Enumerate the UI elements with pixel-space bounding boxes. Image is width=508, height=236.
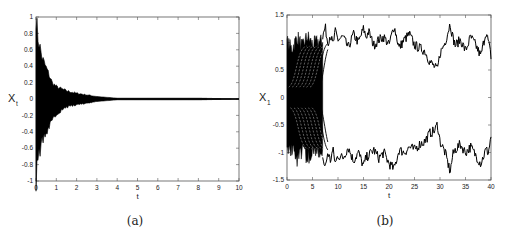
y-tick-label: -1 bbox=[278, 149, 284, 156]
x-tick-label: 9 bbox=[217, 184, 221, 191]
y-tick-label: 1.5 bbox=[275, 11, 284, 18]
y-tick-label: -1.5 bbox=[273, 176, 285, 183]
figure-canvas: 012345678910-1-0.8-0.6-0.4-0.200.20.40.6… bbox=[0, 0, 508, 236]
x-tick-label: 40 bbox=[487, 183, 495, 190]
caption-a: (a) bbox=[127, 214, 144, 228]
y-axis-label-subscript: t bbox=[16, 100, 18, 107]
x-tick-label: 3 bbox=[95, 184, 99, 191]
x-tick-label: 15 bbox=[360, 183, 368, 190]
x-axis-label: t bbox=[136, 192, 139, 201]
x-tick-label: 25 bbox=[411, 183, 419, 190]
y-tick-label: -0.2 bbox=[22, 112, 34, 119]
y-tick-label: 0.2 bbox=[24, 79, 33, 86]
x-tick-label: 30 bbox=[436, 183, 444, 190]
x-tick-label: 8 bbox=[197, 184, 201, 191]
y-tick-label: 0.5 bbox=[275, 66, 284, 73]
chart-panel-a: 012345678910-1-0.8-0.6-0.4-0.200.20.40.6… bbox=[8, 13, 243, 201]
x-axis-label: t bbox=[388, 191, 391, 200]
y-tick-label: -0.4 bbox=[22, 128, 34, 135]
x-tick-label: 0 bbox=[285, 183, 289, 190]
y-tick-label: 0.6 bbox=[24, 46, 33, 53]
y-tick-label: 0.8 bbox=[24, 30, 33, 37]
y-tick-label: 1 bbox=[29, 13, 33, 20]
y-axis-label: X bbox=[8, 92, 16, 104]
x-tick-label: 5 bbox=[311, 183, 315, 190]
x-tick-label: 35 bbox=[462, 183, 470, 190]
lower-branch-line bbox=[323, 122, 491, 173]
y-tick-label: 0 bbox=[29, 95, 33, 102]
trajectory-bundle bbox=[287, 32, 323, 167]
x-tick-label: 1 bbox=[54, 184, 58, 191]
y-tick-label: 0 bbox=[280, 94, 284, 101]
caption-b: (b) bbox=[376, 214, 393, 228]
x-tick-label: 6 bbox=[156, 184, 160, 191]
y-tick-label: -0.8 bbox=[22, 161, 34, 168]
trajectory-envelope bbox=[36, 18, 239, 191]
y-tick-label: -0.6 bbox=[22, 144, 34, 151]
x-tick-label: 5 bbox=[136, 184, 140, 191]
x-tick-label: 10 bbox=[334, 183, 342, 190]
y-tick-label: -0.5 bbox=[273, 121, 285, 128]
x-tick-label: 10 bbox=[235, 184, 243, 191]
chart-panel-b: 0510152025303540-1.5-1-0.500.511.5tX1 bbox=[259, 11, 495, 200]
y-axis-label-subscript: 1 bbox=[267, 99, 271, 106]
x-tick-label: 2 bbox=[75, 184, 79, 191]
y-tick-label: 1 bbox=[280, 39, 284, 46]
x-tick-label: 7 bbox=[176, 184, 180, 191]
y-axis-label: X bbox=[259, 91, 267, 103]
x-tick-label: 4 bbox=[115, 184, 119, 191]
x-tick-label: 20 bbox=[385, 183, 393, 190]
y-tick-label: -1 bbox=[27, 177, 33, 184]
upper-branch-line bbox=[323, 24, 491, 68]
y-tick-label: 0.4 bbox=[24, 62, 33, 69]
